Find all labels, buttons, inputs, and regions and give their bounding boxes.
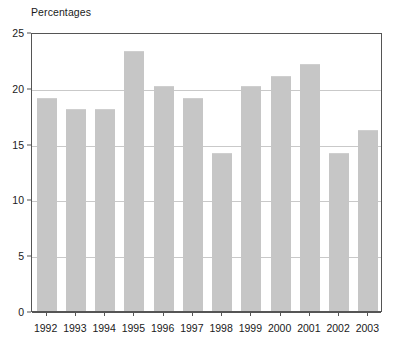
bar [241,86,261,311]
y-axis-tick-label: 25 [12,27,24,39]
y-axis: 0510152025 [0,33,31,312]
y-axis-tick-label: 15 [12,139,24,151]
x-axis-tick [192,313,193,316]
x-axis-tick [75,313,76,316]
x-axis-tick-label: 1998 [209,322,232,334]
x-axis-tick-label: 2003 [356,322,379,334]
bar [154,86,174,311]
y-axis-tick-label: 10 [12,194,24,206]
x-axis-tick [133,313,134,316]
bar-chart: Percentages 0510152025 19921993199419951… [0,0,396,345]
x-axis-tick [250,313,251,316]
x-axis-tick-label: 1993 [63,322,86,334]
x-axis-tick [163,313,164,316]
x-axis-tick-label: 2000 [268,322,291,334]
bar [124,51,144,311]
x-axis-tick-label: 1994 [92,322,115,334]
x-axis: 1992199319941995199619971998199920002001… [31,313,382,343]
x-axis-tick [367,313,368,316]
x-axis-tick [309,313,310,316]
bar [66,109,86,311]
bar [95,109,115,311]
x-axis-tick-label: 2001 [297,322,320,334]
x-axis-tick-label: 1997 [180,322,203,334]
bar-series [32,34,381,311]
y-axis-tick-label: 20 [12,83,24,95]
x-axis-tick-label: 1995 [122,322,145,334]
bar [300,64,320,311]
bar [358,130,378,311]
x-axis-tick [104,313,105,316]
x-axis-tick-label: 1999 [239,322,262,334]
bar [212,153,232,311]
bar [37,98,57,311]
x-axis-tick [338,313,339,316]
chart-title: Percentages [31,6,91,18]
bar [271,76,291,311]
y-axis-tick-label: 0 [18,306,24,318]
x-axis-tick-label: 1992 [34,322,57,334]
x-axis-tick [46,313,47,316]
plot-area [31,33,382,312]
x-axis-tick-label: 1996 [151,322,174,334]
x-axis-tick [221,313,222,316]
bar [183,98,203,311]
y-axis-tick-label: 5 [18,250,24,262]
x-axis-tick [280,313,281,316]
x-axis-tick-label: 2002 [326,322,349,334]
bar [329,153,349,311]
